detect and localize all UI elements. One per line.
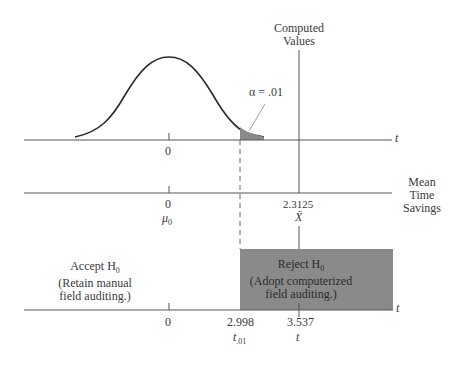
mts-line3: Savings (390, 202, 454, 215)
reject-title: Reject H0 (246, 258, 356, 275)
computed-t-label: t (296, 331, 299, 344)
computed-values-label: Computed Values (272, 22, 326, 48)
mu-subscript: 0 (168, 218, 172, 227)
t-critical-subscript: .01 (236, 337, 246, 346)
mean-time-savings-label: Mean Time Savings (390, 176, 454, 215)
t-critical-label: t.01 (233, 331, 246, 348)
alpha-tail-shade (240, 127, 264, 140)
alpha-label: α = .01 (249, 86, 283, 99)
computed-t-value-label: 3.537 (287, 316, 314, 329)
reject-title-text: Reject H (278, 257, 320, 271)
accept-line2: field auditing.) (50, 290, 140, 303)
top-axis-zero-label: 0 (165, 145, 171, 158)
accept-title: Accept H0 (50, 260, 140, 277)
alpha-leader-line (249, 104, 265, 131)
accept-title-text: Accept H (70, 259, 116, 273)
top-axis-t-label: t (395, 132, 398, 145)
reject-title-sub: 0 (320, 264, 324, 273)
middle-axis-zero-label: 0 (165, 198, 171, 211)
mu-zero-label: μ0 (162, 212, 172, 229)
bottom-axis-t-label: t (396, 302, 399, 315)
computed-values-line2: Values (272, 35, 326, 48)
accept-region-label: Accept H0 (Retain manual field auditing.… (50, 260, 140, 303)
xbar-label: X̄ (295, 211, 302, 224)
reject-line2: field auditing.) (246, 288, 356, 301)
reject-region-label: Reject H0 (Adopt computerized field audi… (246, 258, 356, 301)
normal-curve (75, 57, 264, 137)
accept-title-sub: 0 (116, 266, 120, 275)
critical-value-label: 2.998 (227, 316, 254, 329)
bottom-axis-zero-label: 0 (165, 316, 171, 329)
